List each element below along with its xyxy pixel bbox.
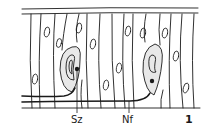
cell-boundaries — [30, 14, 194, 108]
cuticle-line-inner — [22, 13, 198, 14]
sensory-cell-right — [143, 44, 162, 95]
figure-number: 1 — [185, 114, 193, 125]
epithelium-diagram: Sz Nf 1 — [0, 0, 213, 136]
label-sensory-cell: Sz — [71, 115, 83, 125]
nerve-fiber-right — [22, 93, 150, 102]
cuticle-line-outer — [22, 8, 198, 9]
nerve-fibers — [22, 88, 150, 102]
epithelial-nuclei — [32, 23, 190, 94]
label-nerve-fiber: Nf — [122, 115, 133, 125]
diagram-drawing — [0, 0, 213, 136]
